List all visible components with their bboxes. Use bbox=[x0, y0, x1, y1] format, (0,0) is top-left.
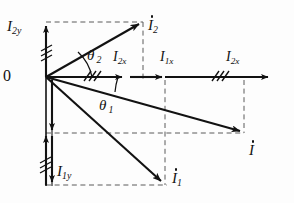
label-theta2: θ2 bbox=[87, 48, 101, 65]
label-i1y: I1y bbox=[57, 164, 71, 181]
phasor-diagram-figure: I2y 0 I1y θ2 θ1 I2x I1x I2x I2 I I1 bbox=[0, 0, 294, 203]
label-i1: I1 bbox=[172, 171, 182, 188]
label-origin: 0 bbox=[3, 68, 11, 84]
label-i1x: I1x bbox=[160, 50, 173, 66]
label-i-total: I bbox=[249, 143, 254, 160]
overdot-icon bbox=[252, 140, 255, 143]
label-i2x-outer: I2x bbox=[226, 50, 239, 66]
overdot-icon bbox=[175, 168, 178, 171]
label-i2x-inner: I2x bbox=[113, 50, 126, 66]
hatch-i1y bbox=[40, 157, 51, 173]
label-theta1: θ1 bbox=[99, 98, 113, 115]
phasor-vectors bbox=[46, 24, 240, 181]
diagram-canvas bbox=[0, 0, 294, 203]
overdot-icon bbox=[151, 15, 154, 18]
arc-theta1 bbox=[115, 77, 118, 92]
label-i2y: I2y bbox=[7, 19, 21, 36]
hatch-i2y bbox=[41, 45, 52, 61]
label-i2: I2 bbox=[148, 18, 158, 35]
